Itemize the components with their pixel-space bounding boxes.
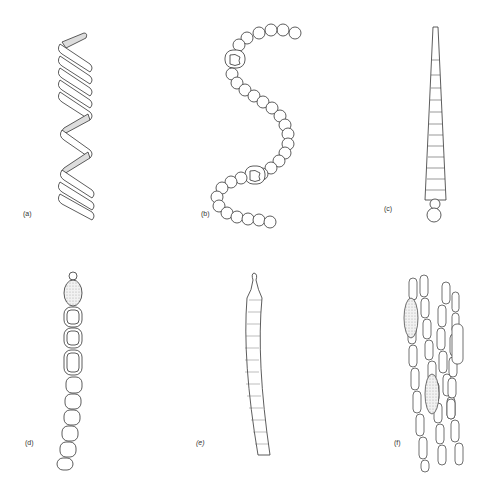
panel-c-tapering-filament-drawing	[425, 27, 446, 222]
panel-c-label: (c)	[384, 205, 392, 213]
panel-b-bead-chain-drawing	[211, 24, 301, 228]
panel-a-helix-drawing	[58, 33, 94, 220]
panel-a-label: (a)	[23, 210, 32, 218]
panel-f-label: (f)	[394, 439, 401, 447]
panel-e-label: (e)	[196, 439, 205, 447]
panel-f-filament-bundle-drawing	[404, 275, 463, 472]
panel-e-trichome-drawing	[245, 273, 270, 455]
panel-d-label: (d)	[25, 439, 34, 447]
figure-canvas: (a) (b)	[0, 0, 486, 484]
panel-b-label: (b)	[201, 210, 210, 218]
panel-d-bead-chain-drawing	[57, 272, 82, 470]
